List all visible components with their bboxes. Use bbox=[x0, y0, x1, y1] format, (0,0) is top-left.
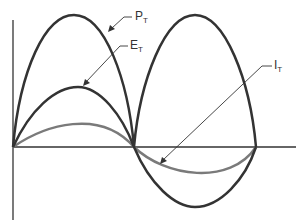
i-arrow-icon bbox=[160, 157, 167, 164]
label-voltage: ET bbox=[130, 38, 143, 54]
e-arrow-icon bbox=[83, 79, 90, 86]
power-curve bbox=[13, 15, 256, 147]
label-current: IT bbox=[274, 58, 282, 74]
p-leader bbox=[112, 17, 132, 28]
label-power: PT bbox=[135, 9, 148, 25]
waveform-diagram bbox=[0, 0, 306, 223]
